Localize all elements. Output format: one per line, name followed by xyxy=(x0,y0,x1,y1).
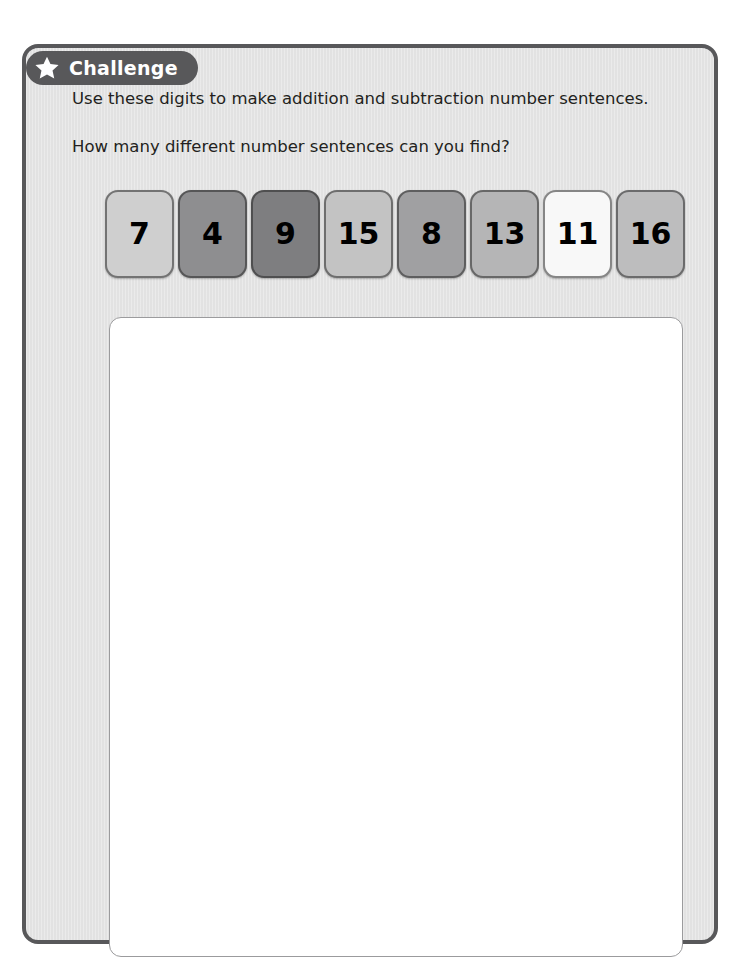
digit-card[interactable]: 15 xyxy=(324,190,393,278)
answer-box[interactable] xyxy=(109,317,683,957)
digit-card[interactable]: 7 xyxy=(105,190,174,278)
digit-card[interactable]: 4 xyxy=(178,190,247,278)
digit-card[interactable]: 11 xyxy=(543,190,612,278)
challenge-panel xyxy=(22,44,718,944)
digit-card[interactable]: 8 xyxy=(397,190,466,278)
challenge-badge: Challenge xyxy=(26,51,198,85)
digit-card[interactable]: 13 xyxy=(470,190,539,278)
instruction-line-2: How many different number sentences can … xyxy=(72,139,510,156)
star-icon xyxy=(34,55,60,81)
challenge-badge-label: Challenge xyxy=(69,59,178,78)
digit-card-row: 749158131116 xyxy=(105,190,685,278)
instruction-line-1: Use these digits to make addition and su… xyxy=(72,91,649,108)
digit-card[interactable]: 9 xyxy=(251,190,320,278)
digit-card[interactable]: 16 xyxy=(616,190,685,278)
